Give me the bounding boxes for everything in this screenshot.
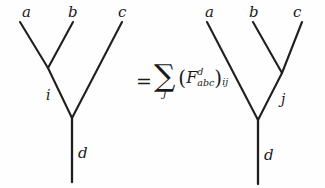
- right-leaf-label-a: a: [205, 5, 214, 20]
- right-internal-label-j: j: [281, 92, 285, 106]
- f-letter: F: [186, 68, 197, 87]
- left-edge-a: [20, 22, 48, 68]
- sigma-icon: ∑: [154, 62, 175, 90]
- f-symbol-equation: = ∑ j ( F d abc ) ij: [136, 62, 228, 100]
- f-scripts: d abc: [197, 67, 214, 88]
- left-edge-i: [48, 68, 72, 118]
- equals-sign: =: [136, 70, 152, 92]
- left-leaf-label-c: c: [118, 5, 126, 20]
- left-internal-label-i: i: [46, 88, 50, 102]
- left-leaf-label-a: a: [22, 5, 31, 20]
- left-root-label-d: d: [78, 146, 88, 161]
- right-leaf-label-c: c: [293, 5, 301, 20]
- right-root-label-d: d: [264, 148, 274, 163]
- right-edge-b: [253, 22, 282, 73]
- left-fusion-tree: [20, 22, 122, 182]
- f-superscript: d: [197, 67, 214, 77]
- right-fusion-tree: [207, 22, 302, 184]
- f-subscript: abc: [197, 78, 214, 88]
- close-paren: ): [214, 68, 222, 88]
- summation-operator: ∑ j: [154, 62, 175, 100]
- matrix-indices: ij: [222, 76, 228, 87]
- open-paren: (: [178, 68, 186, 88]
- right-leaf-label-b: b: [249, 5, 259, 20]
- right-edge-c: [282, 22, 302, 73]
- f-symbol: ( F d abc ) ij: [178, 67, 228, 88]
- left-edge-b: [48, 22, 73, 68]
- f-move-diagram: a b c i d a b c j d = ∑ j ( F d abc ) ij: [0, 0, 325, 188]
- right-edge-j: [258, 73, 282, 120]
- left-leaf-label-b: b: [68, 5, 78, 20]
- left-edge-c: [72, 22, 122, 118]
